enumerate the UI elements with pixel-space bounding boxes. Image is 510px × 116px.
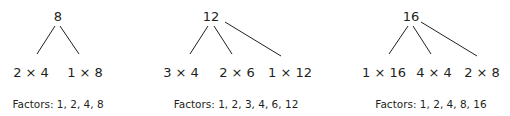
branch-8-to-2x4 bbox=[37, 26, 55, 54]
tree-root-number: 8 bbox=[54, 10, 62, 23]
factors-list: Factors: 1, 2, 4, 8, 16 bbox=[375, 99, 486, 110]
tree-root-number: 12 bbox=[203, 10, 220, 23]
factor-pair: 1 × 12 bbox=[268, 66, 312, 79]
tree-root-number: 16 bbox=[403, 10, 420, 23]
factor-pair: 4 × 4 bbox=[416, 66, 452, 79]
branch-8-to-1x8 bbox=[60, 26, 79, 54]
factor-pair: 2 × 8 bbox=[464, 66, 500, 79]
factor-pair: 1 × 16 bbox=[362, 66, 406, 79]
branch-16-to-1x16 bbox=[389, 26, 408, 54]
factor-pair: 1 × 8 bbox=[67, 66, 103, 79]
branch-12-to-3x4 bbox=[190, 26, 208, 54]
factors-list: Factors: 1, 2, 4, 8 bbox=[12, 99, 103, 110]
factors-list: Factors: 1, 2, 3, 4, 6, 12 bbox=[174, 99, 299, 110]
factor-pair: 2 × 4 bbox=[13, 66, 49, 79]
branch-12-to-2x6 bbox=[214, 26, 232, 54]
branch-16-to-4x4 bbox=[413, 26, 431, 54]
factor-pair: 3 × 4 bbox=[163, 66, 199, 79]
branch-12-to-1x12 bbox=[225, 22, 281, 56]
factor-pair: 2 × 6 bbox=[219, 66, 255, 79]
